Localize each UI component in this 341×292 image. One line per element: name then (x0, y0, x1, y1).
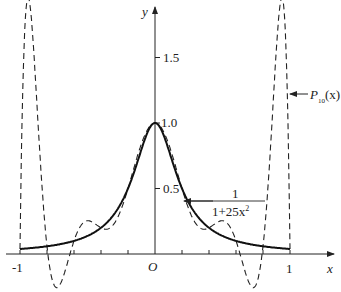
origin-label: O (148, 260, 157, 273)
x-tick-label-1: 1 (286, 262, 293, 275)
y-tick-label-0-5: 0.5 (163, 182, 179, 195)
p10-letter: P (310, 87, 318, 102)
y-axis (155, 7, 160, 254)
runge-label-denominator: 1+25x2 (212, 205, 249, 218)
y-axis-label: y (142, 5, 148, 18)
y-tick-label-1-5: 1.5 (163, 51, 179, 64)
plot-area (0, 0, 341, 292)
x-axis-label: x (327, 262, 333, 275)
x-axis (6, 250, 334, 254)
y-tick-label-1-0: 1.0 (161, 116, 177, 129)
runge-denominator-text: 1+25x (212, 204, 245, 219)
runge-label-numerator: 1 (232, 187, 239, 200)
x-tick-label-neg1: -1 (12, 261, 23, 274)
runge-exponent: 2 (245, 204, 249, 213)
p10-suffix: (x) (325, 87, 340, 102)
p10-label: P10(x) (310, 88, 340, 105)
p10-subscript: 10 (318, 97, 325, 105)
